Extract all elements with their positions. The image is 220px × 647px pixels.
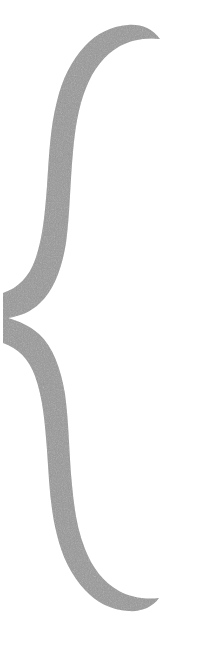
halftone-texture-layer [0,0,220,647]
image-canvas [0,0,220,647]
curly-brace-glyph-svg [0,0,220,647]
halftone-noise-rect [0,0,220,647]
curly-brace-path [3,25,160,611]
